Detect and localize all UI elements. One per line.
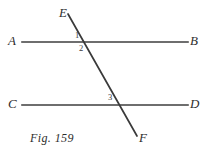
point-label-c: C bbox=[8, 97, 17, 110]
angle-label-3: 3 bbox=[108, 93, 112, 102]
point-label-b: B bbox=[190, 34, 198, 47]
point-label-f: F bbox=[139, 131, 147, 144]
figure-caption: Fig. 159 bbox=[30, 131, 74, 146]
angle-label-1: 1 bbox=[75, 31, 79, 40]
geometry-figure: E A B C D F 1 2 3 Fig. 159 bbox=[0, 0, 207, 158]
point-label-d: D bbox=[190, 97, 199, 110]
angle-label-2: 2 bbox=[79, 44, 83, 53]
point-label-e: E bbox=[59, 6, 67, 19]
point-label-a: A bbox=[8, 34, 16, 47]
